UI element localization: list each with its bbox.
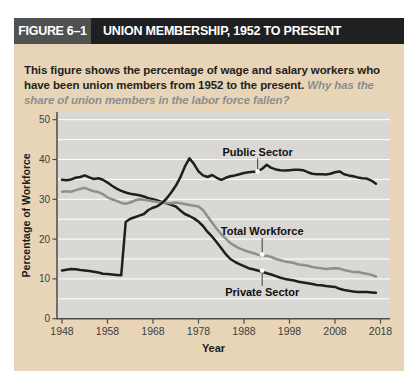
y-tick-label: 30	[39, 194, 51, 205]
y-tick-label: 20	[39, 234, 51, 245]
series-label-dot	[260, 268, 265, 273]
y-axis-title: Percentage of Workforce	[20, 153, 32, 277]
series-label-dot	[260, 252, 265, 257]
y-tick-label: 50	[39, 114, 51, 125]
y-tick-label: 40	[39, 154, 51, 165]
figure-header: FIGURE 6–1 UNION MEMBERSHIP, 1952 TO PRE…	[14, 18, 404, 44]
figure-caption: This figure shows the percentage of wage…	[24, 63, 398, 109]
x-tick-label: 1948	[50, 325, 74, 337]
series-label: Private Sector	[225, 286, 300, 298]
x-tick-label: 1978	[187, 325, 211, 337]
x-axis-title: Year	[202, 342, 226, 354]
series-label-dot	[255, 169, 260, 174]
figure-title: UNION MEMBERSHIP, 1952 TO PRESENT	[91, 18, 404, 44]
y-tick-label: 0	[44, 313, 50, 324]
series-label: Total Workforce	[221, 225, 304, 237]
page: { "figure": { "label": "FIGURE 6–1", "ti…	[0, 0, 412, 380]
figure-card: FIGURE 6–1 UNION MEMBERSHIP, 1952 TO PRE…	[14, 18, 404, 371]
y-tick-label: 10	[39, 273, 51, 284]
figure-number-label: FIGURE 6–1	[14, 18, 91, 44]
x-tick-label: 1968	[141, 325, 165, 337]
series-label: Public Sector	[223, 146, 294, 158]
x-tick-label: 1988	[232, 325, 256, 337]
x-tick-label: 1998	[278, 325, 302, 337]
x-tick-label: 2008	[323, 325, 347, 337]
x-tick-label: 2018	[369, 325, 393, 337]
x-tick-label: 1958	[96, 325, 120, 337]
